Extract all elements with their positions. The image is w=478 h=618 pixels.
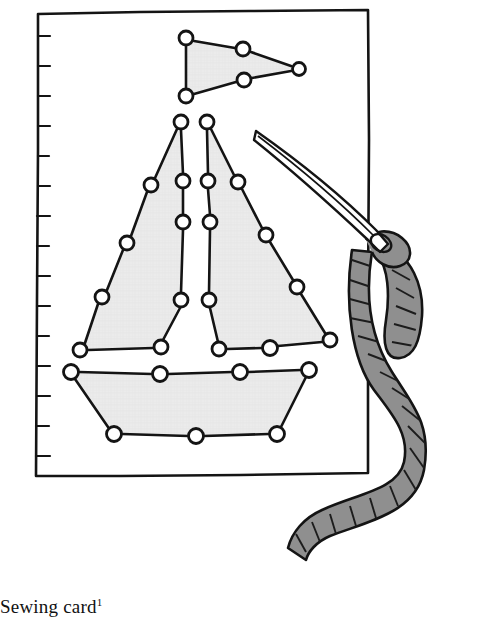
dot-right-sail-edge-1 bbox=[231, 175, 245, 189]
dot-right-sail-edge-3 bbox=[290, 280, 304, 294]
dot-hull-bottom-2 bbox=[189, 429, 204, 444]
right-mast-seg-1 bbox=[207, 130, 208, 174]
dot-mast-left-1 bbox=[174, 115, 188, 129]
dot-mast-right-4 bbox=[202, 293, 216, 307]
dot-mast-left-3 bbox=[176, 215, 190, 229]
dot-hull-bottom-1 bbox=[107, 427, 122, 442]
dot-hull-bottom-3 bbox=[270, 427, 285, 442]
right-mast-seg-3 bbox=[209, 230, 210, 293]
dot-hull-top-4 bbox=[302, 363, 317, 378]
dot-hull-top-2 bbox=[153, 367, 168, 382]
dot-hull-top-3 bbox=[233, 365, 248, 380]
dot-flag-5 bbox=[179, 89, 193, 103]
dot-mast-right-1 bbox=[200, 115, 214, 129]
dot-flag-4 bbox=[237, 73, 251, 87]
dot-mast-left-4 bbox=[174, 293, 188, 307]
dot-flag-2 bbox=[236, 42, 250, 56]
dot-right-sail-foot-1 bbox=[323, 333, 337, 347]
figure-caption: Sewing card1 bbox=[0, 596, 478, 618]
dot-mast-right-5 bbox=[212, 342, 226, 356]
caption-footnote: 1 bbox=[97, 596, 103, 608]
dot-left-sail-edge-1 bbox=[144, 178, 158, 192]
right-sail-foot-2 bbox=[227, 348, 262, 349]
dot-right-sail-foot-2 bbox=[263, 341, 278, 356]
dot-mast-right-2 bbox=[201, 174, 215, 188]
dot-mast-left-2 bbox=[176, 174, 190, 188]
dot-mast-right-3 bbox=[203, 215, 217, 229]
dot-hull-top-1 bbox=[64, 365, 79, 380]
dot-left-sail-edge-2 bbox=[120, 236, 134, 250]
dot-left-sail-edge-3 bbox=[95, 290, 109, 304]
dot-right-sail-edge-2 bbox=[259, 228, 273, 242]
dot-left-sail-foot bbox=[73, 343, 87, 357]
caption-text: Sewing card bbox=[0, 596, 97, 617]
dot-flag-1 bbox=[179, 31, 193, 45]
dot-flag-3 bbox=[293, 63, 306, 76]
dot-mast-left-5 bbox=[154, 340, 168, 354]
